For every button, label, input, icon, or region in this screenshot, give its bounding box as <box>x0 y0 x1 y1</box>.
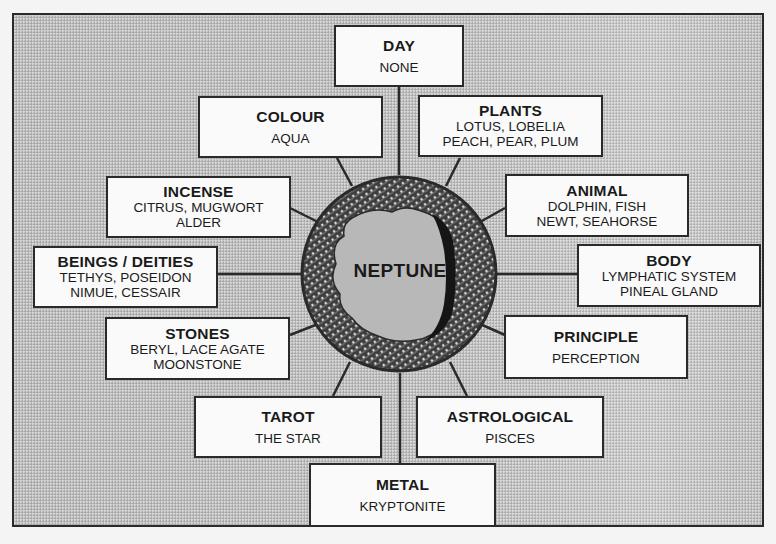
box-title: PRINCIPLE <box>554 329 638 345</box>
box-value: NEWT, SEAHORSE <box>537 214 658 229</box>
box-body: BODY LYMPHATIC SYSTEM PINEAL GLAND <box>577 244 761 307</box>
box-day: DAY NONE <box>334 25 464 87</box>
box-beings-deities: BEINGS / DEITIES TETHYS, POSEIDON NIMUE,… <box>33 246 218 308</box>
box-value: NIMUE, CESSAIR <box>70 285 180 300</box>
box-value: AQUA <box>271 131 309 146</box>
box-title: BODY <box>646 253 692 269</box>
box-tarot: TAROT THE STAR <box>194 396 382 458</box>
box-value: PISCES <box>485 431 535 446</box>
box-value: PEACH, PEAR, PLUM <box>443 134 579 149</box>
box-value: PINEAL GLAND <box>620 284 718 299</box>
box-value: LOTUS, LOBELIA <box>456 119 565 134</box>
box-value: MOONSTONE <box>153 357 241 372</box>
box-value: THE STAR <box>255 431 321 446</box>
box-value: TETHYS, POSEIDON <box>59 270 191 285</box>
box-value: LYMPHATIC SYSTEM <box>602 269 737 284</box>
box-title: COLOUR <box>256 109 324 125</box>
box-principle: PRINCIPLE PERCEPTION <box>504 315 688 379</box>
box-value: ALDER <box>176 215 221 230</box>
box-incense: INCENSE CITRUS, MUGWORT ALDER <box>106 176 291 238</box>
box-plants: PLANTS LOTUS, LOBELIA PEACH, PEAR, PLUM <box>418 95 603 157</box>
box-value: KRYPTONITE <box>360 499 446 514</box>
box-title: DAY <box>383 38 415 54</box>
box-astrological: ASTROLOGICAL PISCES <box>416 396 604 458</box>
box-value: BERYL, LACE AGATE <box>130 342 265 357</box>
box-value: PERCEPTION <box>552 351 640 366</box>
box-title: METAL <box>376 477 429 493</box>
box-value: DOLPHIN, FISH <box>548 199 646 214</box>
box-title: ASTROLOGICAL <box>447 409 573 425</box>
box-title: TAROT <box>261 409 314 425</box>
box-stones: STONES BERYL, LACE AGATE MOONSTONE <box>105 317 290 380</box>
box-title: STONES <box>165 326 230 342</box>
center-planet-label: NEPTUNE <box>330 260 470 282</box>
box-value: CITRUS, MUGWORT <box>133 200 263 215</box>
box-title: BEINGS / DEITIES <box>58 254 194 270</box>
box-metal: METAL KRYPTONITE <box>309 463 496 527</box>
box-title: ANIMAL <box>566 183 627 199</box>
box-title: INCENSE <box>163 184 233 200</box>
box-title: PLANTS <box>479 103 542 119</box>
box-colour: COLOUR AQUA <box>198 96 383 158</box>
box-animal: ANIMAL DOLPHIN, FISH NEWT, SEAHORSE <box>505 174 689 237</box>
box-value: NONE <box>379 60 418 75</box>
